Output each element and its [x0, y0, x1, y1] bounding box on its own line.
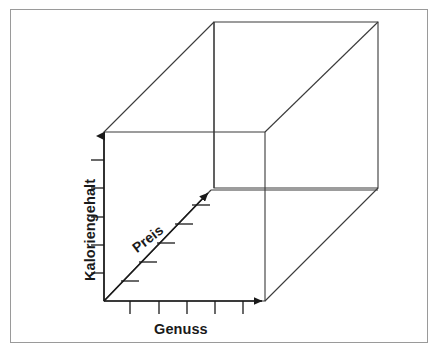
cube-edge-top-left — [104, 22, 214, 132]
three-dimensional-axes-diagram — [0, 0, 442, 357]
cube-back-face — [214, 22, 378, 188]
preis-axis-group — [104, 193, 210, 301]
kaloriengehalt-axis-label: Kaloriengehalt — [82, 179, 98, 281]
genuss-tick-marks — [130, 301, 243, 314]
figure-root: Kaloriengehalt Genuss Preis — [0, 0, 442, 357]
preis-axis-line — [104, 193, 208, 301]
genuss-axis-group — [104, 301, 262, 314]
cube-edge-top-right — [265, 22, 378, 132]
cube-edge-bottom-right — [265, 188, 378, 301]
genuss-axis-label: Genuss — [154, 321, 208, 337]
